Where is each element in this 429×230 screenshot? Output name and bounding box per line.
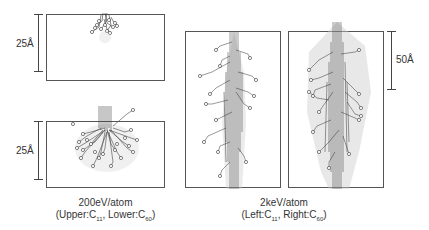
caption-2kev: 2keV/atom (Left:C11, Right:C60) bbox=[220, 197, 348, 225]
caption-200ev-energy: 200eV/atom bbox=[46, 197, 165, 209]
caption-text: ) bbox=[323, 209, 326, 220]
panel-middle-c11-2kev bbox=[185, 31, 281, 188]
caption-2kev-projectiles: (Left:C11, Right:C60) bbox=[220, 209, 348, 225]
panel-right-c60-2kev bbox=[288, 31, 384, 188]
caption-text: , Right:C bbox=[278, 209, 317, 220]
caption-text: (Left:C bbox=[241, 209, 271, 220]
caption-subscript: 60 bbox=[145, 216, 152, 222]
trajectory-cluster-crater bbox=[47, 122, 166, 189]
caption-text: ) bbox=[152, 209, 155, 220]
scale-label-lower-left: 25Å bbox=[16, 145, 34, 156]
caption-text: , Lower:C bbox=[102, 209, 145, 220]
caption-200ev: 200eV/atom (Upper:C11, Lower:C60) bbox=[46, 197, 165, 225]
scale-bar-upper-left bbox=[38, 14, 39, 72]
scale-label-upper-left: 25Å bbox=[16, 38, 34, 49]
trajectory-track-wide bbox=[289, 32, 385, 189]
trajectory-cluster-shallow bbox=[47, 15, 166, 82]
panel-lower-left-c60-200ev bbox=[46, 121, 165, 188]
scale-label-right: 50Å bbox=[396, 54, 414, 65]
caption-200ev-projectiles: (Upper:C11, Lower:C60) bbox=[46, 209, 165, 225]
caption-2kev-energy: 2keV/atom bbox=[220, 197, 348, 209]
caption-text: (Upper:C bbox=[56, 209, 97, 220]
panel-upper-left-c11-200ev bbox=[46, 14, 165, 81]
scale-bar-lower-left bbox=[38, 121, 39, 180]
trajectory-track-deep bbox=[186, 32, 282, 189]
scale-bar-right bbox=[391, 31, 392, 90]
